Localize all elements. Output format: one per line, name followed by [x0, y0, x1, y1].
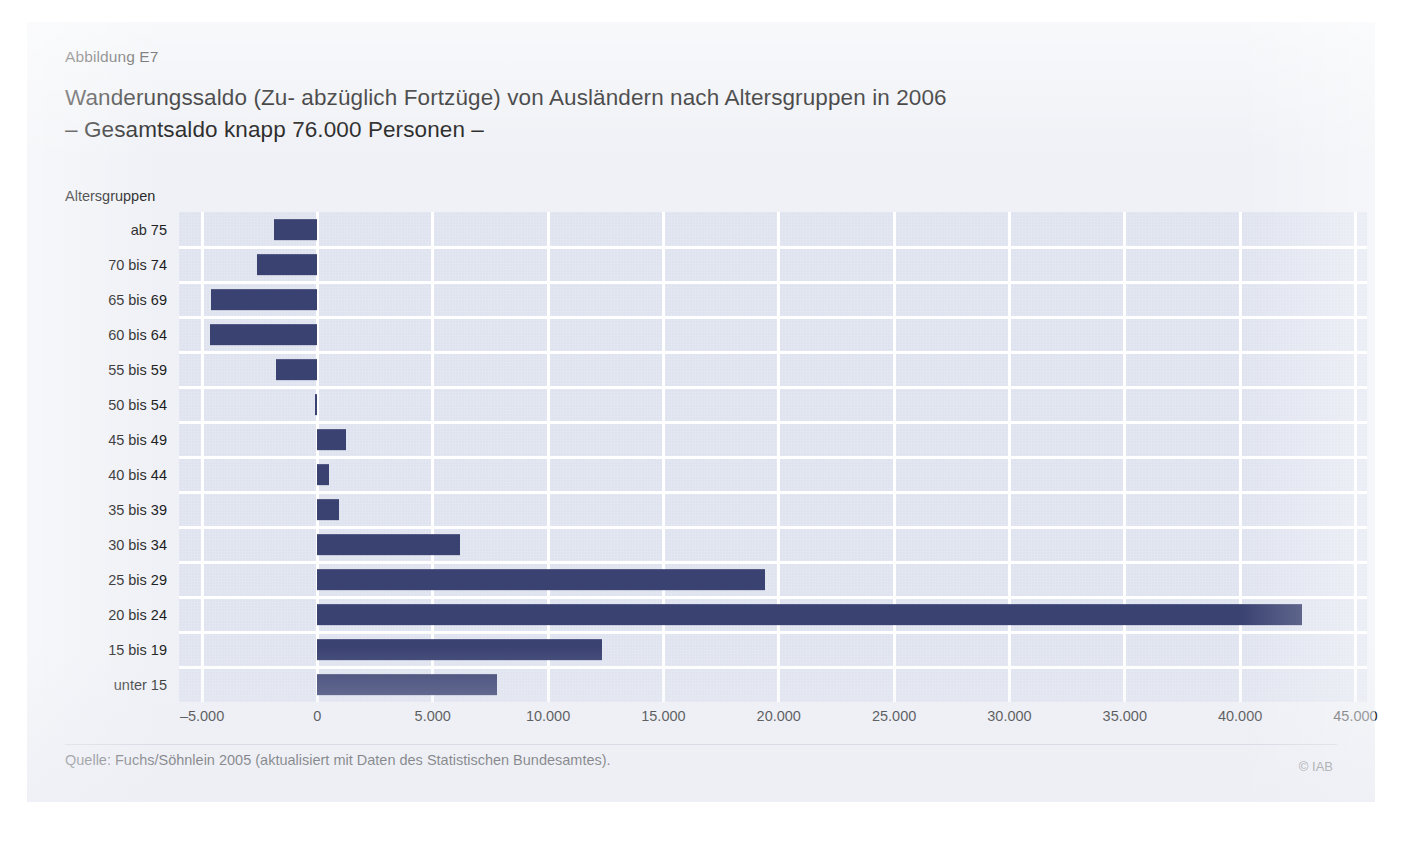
row-separator [179, 596, 1367, 599]
bar [317, 464, 329, 486]
y-axis-tick-label: 45 bis 49 [108, 432, 167, 448]
x-axis-tick-label: 45.000 [1333, 708, 1377, 724]
row-separator [179, 526, 1367, 529]
x-axis-tick-label: –5.000 [180, 708, 224, 724]
x-axis-tick-label: 0 [313, 708, 321, 724]
y-axis-tick-label: 65 bis 69 [108, 292, 167, 308]
bar [317, 674, 497, 696]
bar-row [179, 632, 1367, 667]
bar [276, 359, 318, 381]
row-separator [179, 246, 1367, 249]
y-axis-tick-label: 30 bis 34 [108, 537, 167, 553]
bar-row [179, 562, 1367, 597]
y-axis-tick-label: 55 bis 59 [108, 362, 167, 378]
y-axis-tick-label: 50 bis 54 [108, 397, 167, 413]
bar [317, 604, 1302, 626]
y-axis-tick-label: ab 75 [131, 222, 167, 238]
figure-title-line-1: Wanderungssaldo (Zu- abzüglich Fortzüge)… [65, 82, 1295, 114]
bar [274, 219, 318, 241]
x-axis-tick-label: 5.000 [415, 708, 451, 724]
bar [317, 429, 346, 451]
bar-row [179, 527, 1367, 562]
bar-row [179, 212, 1367, 247]
y-axis-tick-label: unter 15 [114, 677, 167, 693]
row-separator [179, 351, 1367, 354]
x-axis-tick-label: 15.000 [641, 708, 685, 724]
bar-row [179, 282, 1367, 317]
y-axis-tick-label: 70 bis 74 [108, 257, 167, 273]
source-note: Quelle: Fuchs/Söhnlein 2005 (aktualisier… [65, 752, 611, 768]
x-axis-tick-label: 10.000 [526, 708, 570, 724]
x-axis-tick-label: 30.000 [987, 708, 1031, 724]
row-separator [179, 491, 1367, 494]
y-axis-tick-label: 15 bis 19 [108, 642, 167, 658]
figure-card: Abbildung E7 Wanderungssaldo (Zu- abzügl… [27, 22, 1375, 802]
y-axis-caption: Altersgruppen [65, 188, 155, 204]
row-separator [179, 456, 1367, 459]
x-axis-tick-label: 40.000 [1218, 708, 1262, 724]
y-axis-tick-labels: ab 7570 bis 7465 bis 6960 bis 6455 bis 5… [65, 212, 173, 702]
copyright-note: © IAB [1299, 759, 1333, 774]
bar [315, 394, 317, 416]
x-axis-tick-labels: –5.00005.00010.00015.00020.00025.00030.0… [179, 708, 1367, 736]
row-separator [179, 666, 1367, 669]
row-separator [179, 281, 1367, 284]
x-axis-tick-label: 25.000 [872, 708, 916, 724]
x-axis-tick-label: 35.000 [1103, 708, 1147, 724]
bar-chart: ab 7570 bis 7465 bis 6960 bis 6455 bis 5… [65, 212, 1350, 722]
y-axis-tick-label: 60 bis 64 [108, 327, 167, 343]
bar-row [179, 597, 1367, 632]
bar [317, 534, 460, 556]
figure-title: Wanderungssaldo (Zu- abzüglich Fortzüge)… [65, 82, 1295, 146]
bar-row [179, 247, 1367, 282]
bar-row [179, 317, 1367, 352]
bar-row [179, 387, 1367, 422]
y-axis-tick-label: 20 bis 24 [108, 607, 167, 623]
y-axis-tick-label: 25 bis 29 [108, 572, 167, 588]
bar [317, 569, 765, 591]
y-axis-tick-label: 40 bis 44 [108, 467, 167, 483]
figure-label: Abbildung E7 [65, 48, 158, 66]
bar-row [179, 492, 1367, 527]
figure-page: Abbildung E7 Wanderungssaldo (Zu- abzügl… [0, 0, 1403, 843]
bar [317, 499, 339, 521]
row-separator [179, 316, 1367, 319]
bar [257, 254, 317, 276]
plot-area [179, 212, 1367, 702]
bar-row [179, 422, 1367, 457]
row-separator [179, 561, 1367, 564]
x-axis-tick-label: 20.000 [757, 708, 801, 724]
bar-row [179, 667, 1367, 702]
y-axis-tick-label: 35 bis 39 [108, 502, 167, 518]
figure-title-line-2: – Gesamtsaldo knapp 76.000 Personen – [65, 114, 1295, 146]
bar [210, 324, 317, 346]
bar [317, 639, 602, 661]
row-separator [179, 386, 1367, 389]
row-separator [179, 421, 1367, 424]
bar [211, 289, 317, 311]
footer-divider [65, 744, 1337, 745]
bar-row [179, 457, 1367, 492]
row-separator [179, 631, 1367, 634]
bar-row [179, 352, 1367, 387]
